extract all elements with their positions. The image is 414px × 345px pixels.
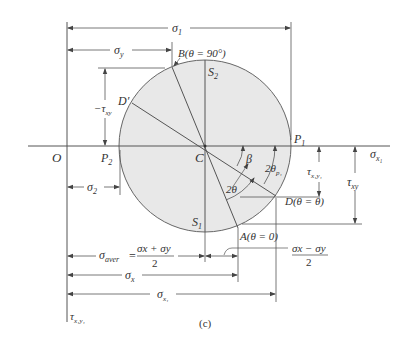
half-diff-numerator: σx − σy <box>292 242 326 254</box>
p2-label: P2 <box>100 151 112 167</box>
sigma-aver-denominator: 2 <box>152 257 158 269</box>
p1-label: P1 <box>293 132 305 148</box>
sigma-aver-equals: = <box>129 249 136 263</box>
point-d-prime-label: D′ <box>117 94 130 108</box>
beta-label: β <box>245 152 252 166</box>
sigma-aver-numerator: σx + σy <box>137 242 171 254</box>
two-theta-label: 2θ <box>226 183 238 195</box>
point-a-label: A(θ = 0) <box>239 230 278 243</box>
figure-caption: (c) <box>199 317 212 330</box>
point-b-label: B(θ = 90°) <box>178 47 226 60</box>
sigma-axis-label: σx₁ <box>370 147 382 163</box>
mohr-circle-diagram: O σx₁ τx₁y₁ C P1 P2 S2 S1 B(θ = 90°) D′ … <box>0 0 414 345</box>
point-d-label: D(θ = θ) <box>284 195 324 208</box>
tau-axis-label: τx₁y₁ <box>70 310 85 325</box>
half-diff-denominator: 2 <box>306 256 312 268</box>
origin-label: O <box>52 150 62 165</box>
center-label: C <box>195 150 204 165</box>
